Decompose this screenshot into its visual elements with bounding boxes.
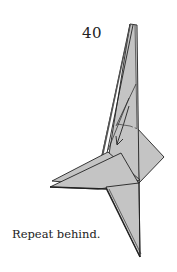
origami-model: [50, 24, 164, 257]
right-flap: [137, 128, 164, 183]
caption: Repeat behind.: [12, 227, 100, 241]
